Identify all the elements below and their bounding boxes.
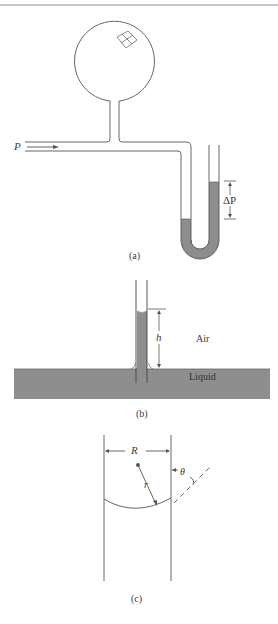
panel-c-meniscus — [104, 435, 210, 581]
u-tube-liquid — [182, 182, 219, 259]
meniscus-curve — [104, 498, 171, 508]
caption-a: (a) — [129, 251, 140, 261]
label-tube-radius: R — [131, 445, 138, 456]
panel-c-arrowheads — [105, 449, 176, 506]
capillary-liquid-column — [137, 311, 147, 381]
label-liquid: Liquid — [189, 372, 216, 382]
bulb — [75, 21, 155, 101]
label-air: Air — [196, 334, 209, 344]
figure-canvas — [0, 0, 278, 624]
curvature-center-dot — [136, 463, 140, 467]
label-contact-angle: θ — [180, 467, 185, 477]
caption-b: (b) — [136, 409, 148, 419]
label-delta-pressure: ΔP — [223, 195, 236, 206]
inflow-arrow-icon — [27, 145, 59, 149]
bulb-stem — [25, 101, 110, 142]
bulb-highlight-icon — [117, 31, 137, 48]
caption-c: (c) — [131, 594, 142, 604]
label-height: h — [156, 332, 162, 343]
label-pressure: P — [14, 141, 21, 152]
label-curvature-radius: r — [144, 480, 148, 490]
